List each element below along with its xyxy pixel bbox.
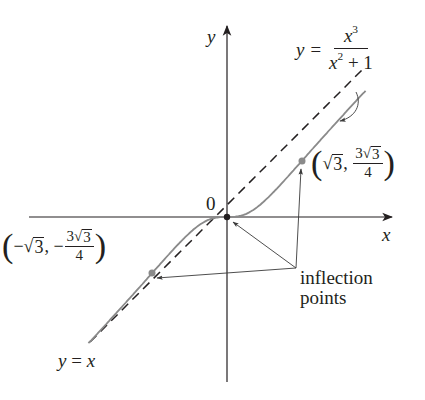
annotation-line-1: inflection	[300, 268, 373, 288]
comma: ,	[343, 154, 352, 172]
coef: 3	[67, 228, 75, 244]
pointer-arrow-origin	[233, 222, 296, 268]
close-paren: )	[384, 146, 395, 180]
annotation-line-2: points	[300, 288, 373, 308]
den: 4	[364, 164, 372, 180]
asymptote-rhs: x	[87, 350, 95, 371]
inflection-label-positive: ( √√33 , 3√3 4 )	[311, 146, 395, 180]
y-fraction: 3√3 4	[353, 146, 382, 180]
coef: 3	[355, 145, 363, 161]
comma: ,	[44, 237, 53, 255]
denominator-tail: + 1	[343, 52, 373, 73]
equation-numerator: x3	[334, 26, 368, 49]
asymptote-eq: =	[66, 350, 86, 371]
equation-lhs: y =	[296, 40, 322, 59]
inflection-label-negative: ( − √3 , − 3√3 4 )	[2, 229, 106, 263]
origin-label: 0	[206, 194, 216, 213]
open-paren: (	[311, 146, 322, 180]
x-axis-label: x	[382, 225, 390, 244]
curve-equation: y = x3 x2 + 1	[296, 26, 374, 72]
y-fraction: 3√3 4	[65, 229, 94, 263]
pointer-arrow-positive	[296, 169, 301, 268]
inflection-annotation: inflection points	[300, 268, 373, 308]
close-paren: )	[95, 229, 106, 263]
asymptote-label: y = x	[58, 351, 95, 370]
sqrt-x: √√33	[322, 154, 343, 173]
inflection-dot-negative	[149, 270, 156, 277]
sqrt-x: √3	[24, 237, 45, 256]
x-sign: −	[13, 237, 23, 255]
y-axis-label: y	[207, 27, 215, 46]
root: 3	[82, 229, 92, 245]
inflection-dot-positive	[299, 158, 306, 165]
den: 4	[75, 247, 83, 263]
root: 3	[371, 146, 381, 162]
equation-fraction: x3 x2 + 1	[329, 26, 373, 72]
numerator-exponent: 3	[352, 23, 358, 35]
y-sign: −	[53, 237, 63, 255]
equation-denominator: x2 + 1	[329, 49, 373, 72]
origin-dot	[224, 214, 230, 220]
open-paren: (	[2, 229, 13, 263]
